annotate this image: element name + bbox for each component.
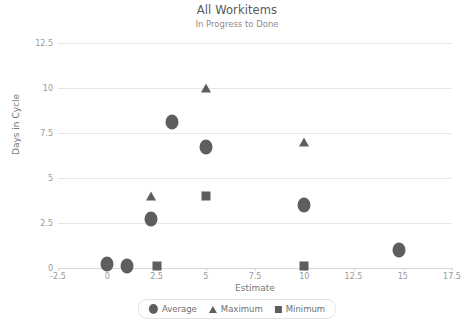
data-point-minimum[interactable]: [201, 192, 210, 201]
plot-area: 02.557.51012.5-2.502.557.51012.51517.5: [58, 43, 452, 268]
x-tick-mark: [58, 268, 59, 271]
chart-legend: Average Maximum Minimum: [138, 299, 336, 319]
chart-subtitle: In Progress to Done: [0, 19, 474, 29]
data-point-average[interactable]: [199, 139, 212, 154]
legend-label: Average: [162, 304, 197, 314]
x-tick-mark: [354, 268, 355, 271]
data-point-minimum[interactable]: [300, 262, 309, 271]
data-point-average[interactable]: [144, 212, 157, 227]
x-tick-mark: [255, 268, 256, 271]
square-marker-icon: [275, 306, 282, 313]
data-point-average[interactable]: [392, 243, 405, 258]
legend-item-average[interactable]: Average: [149, 304, 197, 314]
x-tick-label: 17.5: [443, 272, 461, 281]
x-tick-label: 10: [299, 272, 309, 281]
circle-marker-icon: [149, 304, 158, 314]
x-tick-label: 0: [105, 272, 110, 281]
legend-item-maximum[interactable]: Maximum: [209, 304, 263, 314]
x-tick-mark: [206, 268, 207, 271]
gridline: [58, 43, 452, 44]
y-tick-label: 5: [48, 174, 53, 183]
gridline: [58, 223, 452, 224]
triangle-marker-icon: [209, 306, 217, 313]
x-tick-mark: [403, 268, 404, 271]
data-point-maximum[interactable]: [146, 192, 156, 201]
x-tick-label: -2.5: [50, 272, 66, 281]
y-tick-label: 12.5: [35, 39, 53, 48]
chart-title: All Workitems: [0, 3, 474, 17]
legend-item-minimum[interactable]: Minimum: [275, 304, 325, 314]
data-point-minimum[interactable]: [152, 262, 161, 271]
data-point-average[interactable]: [298, 198, 311, 213]
data-point-maximum[interactable]: [201, 84, 211, 93]
x-tick-label: 5: [203, 272, 208, 281]
scatter-chart: All Workitems In Progress to Done Days i…: [0, 0, 474, 333]
data-point-maximum[interactable]: [299, 138, 309, 147]
x-tick-label: 15: [398, 272, 408, 281]
data-point-average[interactable]: [120, 259, 133, 274]
x-tick-mark: [452, 268, 453, 271]
data-point-average[interactable]: [166, 115, 179, 130]
data-point-average[interactable]: [101, 257, 114, 272]
gridline: [58, 133, 452, 134]
x-tick-label: 2.5: [150, 272, 163, 281]
gridline: [58, 88, 452, 89]
y-tick-label: 7.5: [40, 129, 53, 138]
y-tick-label: 2.5: [40, 219, 53, 228]
gridline: [58, 178, 452, 179]
legend-label: Minimum: [286, 304, 325, 314]
x-tick-label: 7.5: [249, 272, 262, 281]
x-tick-label: 12.5: [345, 272, 363, 281]
y-tick-label: 10: [43, 84, 53, 93]
legend-label: Maximum: [221, 304, 263, 314]
y-axis-title: Days in Cycle: [11, 94, 21, 155]
x-axis-title: Estimate: [58, 283, 452, 293]
